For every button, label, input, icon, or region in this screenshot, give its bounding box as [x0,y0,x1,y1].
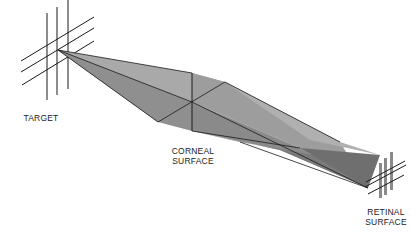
target-cross [21,0,94,100]
retinal-bars [379,152,393,198]
target-label-text: TARGET [23,113,58,123]
retinal-surface-label: RETINAL SURFACE [360,207,412,227]
retinal-label-line1: RETINAL [360,207,412,217]
light-beam-posterior [192,73,380,188]
target-label: TARGET [18,113,64,123]
retinal-label-line2: SURFACE [360,217,412,227]
corneal-label-line2: SURFACE [164,156,222,166]
corneal-label-line1: CORNEAL [164,146,222,156]
corneal-surface-label: CORNEAL SURFACE [164,146,222,166]
